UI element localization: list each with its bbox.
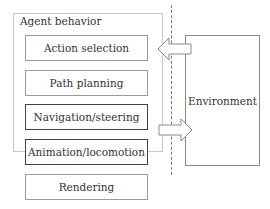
layer-animation-locomotion: Animation/locomotion: [25, 139, 148, 165]
layer-action-selection: Action selection: [25, 35, 148, 61]
right-arrow-icon: [157, 117, 193, 143]
layer-path-planning: Path planning: [25, 70, 148, 96]
left-arrow-icon: [157, 36, 193, 62]
boundary-dashed-line: [171, 5, 172, 175]
environment-box: Environment: [185, 35, 260, 166]
layer-rendering: Rendering: [25, 174, 148, 200]
layer-navigation-steering: Navigation/steering: [25, 104, 148, 130]
agent-behavior-label: Agent behavior: [20, 15, 101, 27]
